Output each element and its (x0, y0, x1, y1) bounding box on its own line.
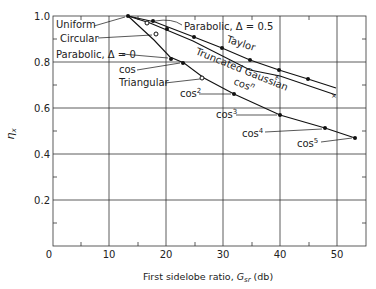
svg-text:×: × (331, 92, 337, 100)
svg-text:1.0: 1.0 (34, 11, 50, 22)
svg-text:40: 40 (274, 249, 287, 260)
label-circular: Circular (60, 33, 99, 44)
svg-text:0: 0 (46, 249, 52, 260)
label-uniform: Uniform (56, 19, 96, 30)
chart: 0 10 20 30 40 50 0.2 0.4 0.6 0.8 1.0 Fir… (0, 0, 376, 289)
label-triangular: Triangular (118, 77, 170, 88)
y-tick-labels: 0.2 0.4 0.6 0.8 1.0 (34, 11, 50, 206)
label-cos4: cos4 (242, 127, 264, 139)
svg-text:10: 10 (103, 249, 116, 260)
label-cos3: cos3 (216, 108, 237, 120)
svg-text:50: 50 (331, 249, 344, 260)
label-cos5: cos5 (297, 137, 318, 149)
svg-text:30: 30 (217, 249, 230, 260)
label-taylor: Taylor (224, 33, 257, 53)
label-cos2: cos2 (180, 87, 201, 99)
svg-text:0.6: 0.6 (34, 103, 50, 114)
label-cos: cos (119, 64, 136, 75)
x-axis-label: First sidelobe ratio, Gsr (db) (143, 271, 273, 284)
x-tick-labels: 0 10 20 30 40 50 (46, 249, 344, 260)
svg-text:20: 20 (160, 249, 173, 260)
label-parabolic-05: Parabolic, Δ = 0.5 (184, 21, 273, 32)
svg-text:0.4: 0.4 (34, 149, 50, 160)
svg-text:0.2: 0.2 (34, 195, 50, 206)
label-parabolic-0: Parabolic, Δ = 0 (56, 49, 136, 60)
svg-text:0.8: 0.8 (34, 57, 50, 68)
y-axis-label: ηx (4, 128, 18, 140)
